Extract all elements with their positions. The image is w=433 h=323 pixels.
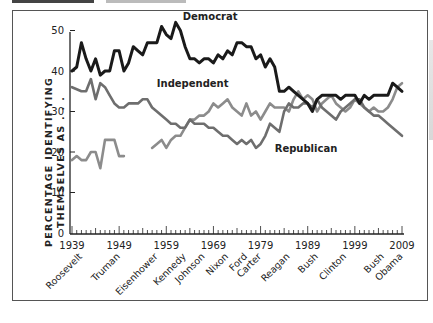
series-line-independent [72, 140, 124, 168]
president-label: Clinton [317, 251, 348, 282]
x-tick-label: 1999 [342, 240, 367, 251]
x-tick-label: 1949 [106, 240, 131, 251]
president-label: Bush [295, 251, 319, 275]
y-tick-label: 20 [51, 147, 64, 158]
series-line-republican [72, 79, 402, 148]
president-label: Truman [88, 251, 122, 285]
series-label-democrat: Democrat [183, 11, 238, 22]
y-tick-label: 10 [51, 187, 64, 198]
x-tick-label: 1989 [295, 240, 320, 251]
x-tick-label: 2009 [389, 240, 414, 251]
y-tick-label: 30 [51, 106, 64, 117]
president-label: Nixon [203, 251, 230, 278]
line-chart: 0102030405019391949195919691979198919992… [0, 0, 433, 323]
x-tick-label: 1959 [154, 240, 179, 251]
y-tick-label: 0 [58, 228, 64, 239]
president-label: Reagan [259, 251, 292, 284]
x-tick-label: 1969 [201, 240, 226, 251]
series-label-republican: Republican [275, 143, 338, 154]
series-line-independent [152, 83, 402, 148]
president-label: Roosevelt [44, 250, 85, 291]
y-tick-label: 50 [51, 25, 64, 36]
x-tick-label: 1939 [59, 240, 84, 251]
series-label-independent: Independent [157, 78, 229, 89]
y-tick-label: 40 [51, 66, 64, 77]
x-tick-label: 1979 [248, 240, 273, 251]
series-line-democrat [72, 22, 402, 111]
